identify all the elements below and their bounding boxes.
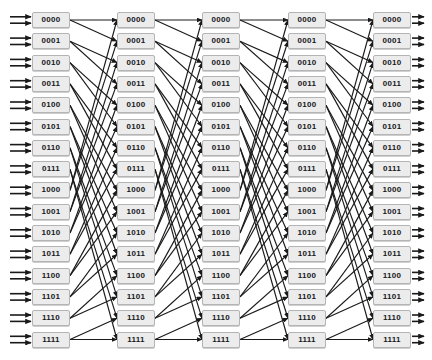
- node-stage4-1110: 1110: [373, 310, 411, 326]
- node-stage3-0111: 0111: [288, 161, 326, 177]
- node-stage3-1011: 1011: [288, 246, 326, 262]
- node-stage1-1100: 1100: [117, 268, 155, 284]
- node-stage1-1000: 1000: [117, 182, 155, 198]
- node-stage4-1000: 1000: [373, 182, 411, 198]
- node-stage3-1110: 1110: [288, 310, 326, 326]
- node-stage4-0011: 0011: [373, 76, 411, 92]
- node-stage4-1100: 1100: [373, 268, 411, 284]
- node-stage4-0010: 0010: [373, 55, 411, 71]
- node-stage0-1100: 1100: [32, 268, 70, 284]
- node-stage0-1011: 1011: [32, 246, 70, 262]
- node-stage0-0010: 0010: [32, 55, 70, 71]
- node-stage2-1101: 1101: [202, 289, 240, 305]
- node-stage4-0100: 0100: [373, 97, 411, 113]
- node-stage3-1101: 1101: [288, 289, 326, 305]
- node-stage2-0000: 0000: [202, 12, 240, 28]
- node-stage0-1111: 1111: [32, 332, 70, 348]
- node-stage4-1101: 1101: [373, 289, 411, 305]
- node-stage1-0001: 0001: [117, 33, 155, 49]
- node-stage1-1001: 1001: [117, 204, 155, 220]
- node-stage2-1000: 1000: [202, 182, 240, 198]
- node-stage4-0101: 0101: [373, 119, 411, 135]
- node-stage1-0011: 0011: [117, 76, 155, 92]
- node-stage2-0010: 0010: [202, 55, 240, 71]
- node-stage3-0011: 0011: [288, 76, 326, 92]
- node-stage4-0001: 0001: [373, 33, 411, 49]
- node-stage2-1111: 1111: [202, 332, 240, 348]
- node-stage4-0111: 0111: [373, 161, 411, 177]
- network-diagram: 0000000100100011010001010110011110001001…: [0, 0, 432, 360]
- node-stage1-0010: 0010: [117, 55, 155, 71]
- node-stage3-1000: 1000: [288, 182, 326, 198]
- node-stage2-1100: 1100: [202, 268, 240, 284]
- node-stage3-0101: 0101: [288, 119, 326, 135]
- node-stage0-0011: 0011: [32, 76, 70, 92]
- node-stage4-0000: 0000: [373, 12, 411, 28]
- node-stage3-0100: 0100: [288, 97, 326, 113]
- node-stage0-0111: 0111: [32, 161, 70, 177]
- node-stage3-1111: 1111: [288, 332, 326, 348]
- node-stage1-1111: 1111: [117, 332, 155, 348]
- node-stage1-0000: 0000: [117, 12, 155, 28]
- node-stage1-1011: 1011: [117, 246, 155, 262]
- node-stage4-1011: 1011: [373, 246, 411, 262]
- node-stage2-1010: 1010: [202, 225, 240, 241]
- node-stage1-0111: 0111: [117, 161, 155, 177]
- node-stage2-0101: 0101: [202, 119, 240, 135]
- node-stage0-0101: 0101: [32, 119, 70, 135]
- node-stage1-0110: 0110: [117, 140, 155, 156]
- node-stage1-1010: 1010: [117, 225, 155, 241]
- node-stage3-1001: 1001: [288, 204, 326, 220]
- node-stage0-0100: 0100: [32, 97, 70, 113]
- node-stage2-0100: 0100: [202, 97, 240, 113]
- node-stage4-1010: 1010: [373, 225, 411, 241]
- node-stage4-1001: 1001: [373, 204, 411, 220]
- node-stage1-1101: 1101: [117, 289, 155, 305]
- node-stage3-0000: 0000: [288, 12, 326, 28]
- node-stage0-0001: 0001: [32, 33, 70, 49]
- node-stage0-1001: 1001: [32, 204, 70, 220]
- node-stage0-1000: 1000: [32, 182, 70, 198]
- node-stage3-1010: 1010: [288, 225, 326, 241]
- node-stage2-0001: 0001: [202, 33, 240, 49]
- node-stage2-0111: 0111: [202, 161, 240, 177]
- node-stage2-1110: 1110: [202, 310, 240, 326]
- node-stage2-0011: 0011: [202, 76, 240, 92]
- node-stage2-1011: 1011: [202, 246, 240, 262]
- node-stage2-0110: 0110: [202, 140, 240, 156]
- node-stage0-1110: 1110: [32, 310, 70, 326]
- node-stage4-1111: 1111: [373, 332, 411, 348]
- node-stage1-0101: 0101: [117, 119, 155, 135]
- node-stage1-1110: 1110: [117, 310, 155, 326]
- node-stage3-0001: 0001: [288, 33, 326, 49]
- node-stage3-0010: 0010: [288, 55, 326, 71]
- node-stage3-0110: 0110: [288, 140, 326, 156]
- node-layer: 0000000100100011010001010110011110001001…: [0, 0, 432, 360]
- node-stage0-1010: 1010: [32, 225, 70, 241]
- node-stage3-1100: 1100: [288, 268, 326, 284]
- node-stage0-0000: 0000: [32, 12, 70, 28]
- node-stage1-0100: 0100: [117, 97, 155, 113]
- node-stage0-1101: 1101: [32, 289, 70, 305]
- node-stage0-0110: 0110: [32, 140, 70, 156]
- node-stage4-0110: 0110: [373, 140, 411, 156]
- node-stage2-1001: 1001: [202, 204, 240, 220]
